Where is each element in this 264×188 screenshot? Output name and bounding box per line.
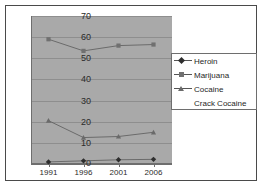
marijuana-marker-icon xyxy=(172,68,194,82)
legend-label-crack-cocaine: Crack Cocaine xyxy=(194,99,246,108)
datapoint xyxy=(46,118,51,123)
datapoint xyxy=(81,49,85,53)
x-tick-2001: 2001 xyxy=(99,168,139,177)
x-tickmark-2006 xyxy=(154,164,155,167)
legend-item-cocaine[interactable]: Cocaine xyxy=(172,82,256,96)
x-tickmark-1991 xyxy=(49,164,50,167)
series-marijuana xyxy=(46,37,155,53)
line-chart: 70 60 50 40 30 20 10 0 1991 1996 2001 20… xyxy=(6,6,258,182)
x-tickmark-2001 xyxy=(119,164,120,167)
x-tick-1996: 1996 xyxy=(64,168,104,177)
x-tick-2006: 2006 xyxy=(134,168,174,177)
legend-label-cocaine: Cocaine xyxy=(194,85,223,94)
legend-item-marijuana[interactable]: Marijuana xyxy=(172,68,256,82)
series-heroin xyxy=(46,157,156,165)
series-cocaine xyxy=(46,118,156,140)
legend-item-crack-cocaine[interactable]: Crack Cocaine xyxy=(172,96,256,110)
legend-item-heroin[interactable]: Heroin xyxy=(172,54,256,68)
datapoint xyxy=(116,157,121,162)
datapoint xyxy=(46,37,50,41)
datapoint xyxy=(151,42,155,46)
chart-legend: Heroin Marijuana Cocaine Crack Cocaine xyxy=(171,53,257,110)
cocaine-marker-icon xyxy=(172,82,194,96)
datapoint xyxy=(151,157,156,162)
series-layer xyxy=(31,16,171,164)
datapoint xyxy=(81,158,86,163)
datapoint xyxy=(151,130,156,135)
datapoint xyxy=(116,44,120,48)
legend-label-heroin: Heroin xyxy=(194,57,218,66)
crack-cocaine-marker-icon xyxy=(172,96,194,110)
heroin-marker-icon xyxy=(172,54,194,68)
chart-frame: 70 60 50 40 30 20 10 0 1991 1996 2001 20… xyxy=(5,5,257,181)
x-tickmark-1996 xyxy=(84,164,85,167)
datapoint xyxy=(46,159,51,164)
legend-label-marijuana: Marijuana xyxy=(194,71,229,80)
x-tick-1991: 1991 xyxy=(29,168,69,177)
